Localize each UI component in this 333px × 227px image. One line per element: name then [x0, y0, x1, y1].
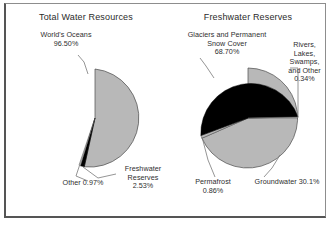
pie-label-glaciers-snow-cover: Glaciers and Permanent Snow Cover 68.70%: [173, 31, 281, 57]
leader-line-worlds-oceans: [78, 55, 88, 74]
pie-label-freshwater-reserves: Freshwater Reserves 2.53%: [117, 165, 169, 191]
pie-label-worlds-oceans: World's Oceans 96.50%: [14, 31, 118, 48]
leader-line-freshwater-reserves: [83, 167, 116, 178]
chart-panel-freshwater-reserves: Freshwater Reserves Glaciers and Permane…: [168, 0, 328, 227]
pie-slice-worlds-oceans: [84, 69, 139, 167]
leader-line-glaciers: [200, 58, 214, 78]
pie-label-rivers-lakes-swamps: Rivers, Lakes, Swamps, and Other 0.34%: [281, 41, 328, 84]
pie-label-other: Other 0.97%: [50, 179, 116, 188]
pie-label-groundwater: Groundwater 30.1%: [246, 178, 328, 187]
figure-canvas: Total Water Resources World's Oceans 96.…: [0, 0, 333, 227]
chart-panel-total-water-resources: Total Water Resources World's Oceans 96.…: [4, 0, 168, 227]
pie-label-permafrost: Permafrost 0.86%: [184, 178, 242, 195]
